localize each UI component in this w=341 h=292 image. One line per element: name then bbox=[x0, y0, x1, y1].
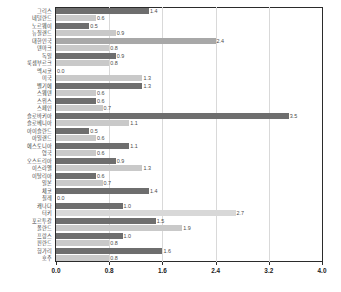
category-label: 캐나다 bbox=[0, 203, 52, 209]
bar-track: 0.5 bbox=[56, 22, 322, 30]
bar-track: 1.0 bbox=[56, 202, 322, 210]
bar-value-label: 2.7 bbox=[236, 210, 245, 216]
bar-track: 1.4 bbox=[56, 187, 322, 195]
bar-track: 1.4 bbox=[56, 7, 322, 15]
x-tick-mark bbox=[162, 262, 163, 265]
x-tick-label: 2.4 bbox=[211, 267, 220, 274]
bar bbox=[56, 180, 103, 186]
bar bbox=[56, 53, 116, 59]
bar bbox=[56, 90, 96, 96]
x-tick-label: 1.6 bbox=[158, 267, 167, 274]
bar-value-label: 0.7 bbox=[103, 180, 112, 186]
bar-value-label: 0.6 bbox=[96, 15, 105, 21]
bar-value-label: 1.3 bbox=[142, 165, 151, 171]
bar-value-label: 1.4 bbox=[149, 188, 158, 194]
bar bbox=[56, 218, 156, 224]
x-tick-mark bbox=[322, 262, 323, 265]
bar bbox=[56, 158, 116, 164]
x-axis: 0.00.81.62.43.24.0 bbox=[55, 262, 323, 286]
category-label: 스웨덴 bbox=[0, 90, 52, 96]
bar-row: 칠레0.0 bbox=[0, 195, 341, 203]
bar-row: 터키2.7 bbox=[0, 210, 341, 218]
bar-track: 0.0 bbox=[56, 195, 322, 203]
category-label: 에스토니아 bbox=[0, 143, 52, 149]
bar bbox=[56, 173, 96, 179]
bar bbox=[56, 165, 142, 171]
bar bbox=[56, 30, 116, 36]
category-label: 폴란드 bbox=[0, 225, 52, 231]
bar-track: 3.5 bbox=[56, 112, 322, 120]
bar-track: 0.6 bbox=[56, 172, 322, 180]
category-label: 대한민국 bbox=[0, 38, 52, 44]
category-label: 포르투갈 bbox=[0, 218, 52, 224]
category-label: 노르웨이 bbox=[0, 23, 52, 29]
bar-track: 0.9 bbox=[56, 52, 322, 60]
bar-row: 스위스0.6 bbox=[0, 97, 341, 105]
bar-track: 0.8 bbox=[56, 255, 322, 263]
x-tick-label: 0.0 bbox=[52, 267, 61, 274]
bar-track: 0.7 bbox=[56, 105, 322, 113]
bar-value-label: 0.7 bbox=[103, 105, 112, 111]
bar-value-label: 0.6 bbox=[96, 150, 105, 156]
bar-value-label: 0.0 bbox=[56, 195, 65, 201]
bar-track: 0.6 bbox=[56, 97, 322, 105]
bar-value-label: 1.5 bbox=[156, 218, 165, 224]
bar-row: 영국0.6 bbox=[0, 150, 341, 158]
bar bbox=[56, 38, 216, 44]
bar-row: 핀란드0.8 bbox=[0, 240, 341, 248]
bar-chart: 그리스1.4네덜란드0.6노르웨이0.5뉴질랜드0.9대한민국2.4덴마크0.8… bbox=[0, 0, 341, 292]
bar bbox=[56, 120, 129, 126]
x-tick-mark bbox=[269, 262, 270, 265]
bar bbox=[56, 255, 109, 261]
x-tick-mark bbox=[216, 262, 217, 265]
bar-value-label: 2.4 bbox=[216, 38, 225, 44]
bar-track: 1.3 bbox=[56, 82, 322, 90]
category-label: 그리스 bbox=[0, 8, 52, 14]
category-label: 벨기에 bbox=[0, 83, 52, 89]
x-tick-label: 0.8 bbox=[105, 267, 114, 274]
bar-track: 0.6 bbox=[56, 135, 322, 143]
category-label: 미국 bbox=[0, 75, 52, 81]
category-label: 뉴질랜드 bbox=[0, 30, 52, 36]
bar bbox=[56, 105, 103, 111]
bar-value-label: 0.8 bbox=[109, 240, 118, 246]
bar-row: 호주0.8 bbox=[0, 255, 341, 263]
bar bbox=[56, 210, 236, 216]
category-label: 스페인 bbox=[0, 105, 52, 111]
bar-value-label: 0.6 bbox=[96, 90, 105, 96]
bar-value-label: 1.6 bbox=[162, 248, 171, 254]
bar-row: 슬로바키아3.5 bbox=[0, 112, 341, 120]
bar bbox=[56, 135, 96, 141]
bar bbox=[56, 45, 109, 51]
bar-value-label: 0.0 bbox=[56, 68, 65, 74]
x-tick-mark bbox=[109, 262, 110, 265]
bar bbox=[56, 225, 182, 231]
bar-track: 1.6 bbox=[56, 247, 322, 255]
bar-row: 룩셈부르크0.8 bbox=[0, 60, 341, 68]
bar-row: 덴마크0.8 bbox=[0, 45, 341, 53]
bar-row: 슬로베니아1.1 bbox=[0, 120, 341, 128]
bar-track: 0.6 bbox=[56, 15, 322, 23]
bar-row: 독일0.9 bbox=[0, 52, 341, 60]
bar-row: 오스트리아0.9 bbox=[0, 157, 341, 165]
bar bbox=[56, 23, 89, 29]
bar bbox=[56, 150, 96, 156]
category-label: 멕시코 bbox=[0, 68, 52, 74]
bar-row: 이탈리아0.6 bbox=[0, 172, 341, 180]
bar-row: 일본0.7 bbox=[0, 180, 341, 188]
bar-row: 미국1.3 bbox=[0, 75, 341, 83]
bar-value-label: 1.0 bbox=[123, 203, 132, 209]
category-label: 핀란드 bbox=[0, 240, 52, 246]
category-label: 일본 bbox=[0, 180, 52, 186]
category-label: 오스트리아 bbox=[0, 158, 52, 164]
bar-track: 1.1 bbox=[56, 120, 322, 128]
x-tick-label: 3.2 bbox=[264, 267, 273, 274]
bar-rows: 그리스1.4네덜란드0.6노르웨이0.5뉴질랜드0.9대한민국2.4덴마크0.8… bbox=[0, 7, 341, 262]
bar-value-label: 0.5 bbox=[89, 23, 98, 29]
bar-row: 에스토니아1.1 bbox=[0, 142, 341, 150]
bar bbox=[56, 240, 109, 246]
bar-track: 0.6 bbox=[56, 150, 322, 158]
category-label: 헝가리 bbox=[0, 248, 52, 254]
bar-track: 2.7 bbox=[56, 210, 322, 218]
bar-row: 헝가리1.6 bbox=[0, 247, 341, 255]
